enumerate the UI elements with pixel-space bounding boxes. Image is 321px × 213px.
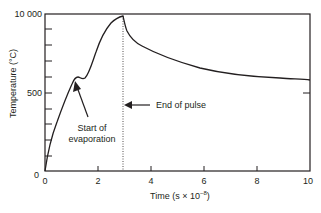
evaporation-arrow <box>73 81 88 117</box>
end-of-pulse-label: End of pulse <box>156 100 206 110</box>
plot-frame <box>45 14 310 171</box>
x-ticks <box>98 166 257 171</box>
x-tick-10: 10 <box>303 176 313 186</box>
x-tick-2: 2 <box>95 176 100 186</box>
evaporation-label-line1: Start of <box>77 123 107 133</box>
temperature-curve <box>45 16 310 171</box>
evaporation-label-line2: evaporation <box>68 134 115 144</box>
temperature-chart: 10 000 500 0 0 2 4 6 8 10 Time (s × 10−8… <box>0 0 321 213</box>
x-tick-8: 8 <box>254 176 259 186</box>
y-label-top: 10 000 <box>14 9 42 19</box>
end-of-pulse-arrow <box>124 101 150 109</box>
x-tick-0: 0 <box>42 176 47 186</box>
y-label-mid: 500 <box>27 88 42 98</box>
y-axis-title: Temperature (°C) <box>8 49 18 118</box>
x-tick-6: 6 <box>201 176 206 186</box>
x-axis-title: Time (s × 10−8) <box>150 190 210 201</box>
y-label-bottom: 0 <box>34 170 39 180</box>
x-tick-4: 4 <box>148 176 153 186</box>
